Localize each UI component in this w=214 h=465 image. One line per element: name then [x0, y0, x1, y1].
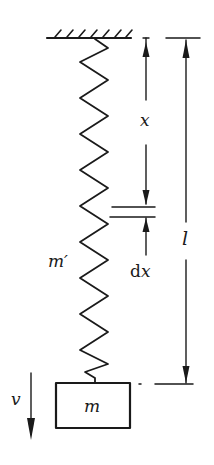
- label-mass: m: [84, 398, 100, 415]
- label-l: l: [182, 229, 188, 248]
- dx-element-marker: [110, 207, 155, 255]
- spring-zigzag: [80, 39, 108, 383]
- label-spring-mass: m′: [48, 253, 68, 270]
- spring-mass-diagram: x d x l m′ m v: [0, 0, 214, 465]
- ceiling-support: [47, 30, 132, 38]
- label-dx-d: d: [130, 263, 141, 280]
- velocity-arrow: [27, 373, 35, 440]
- label-velocity: v: [11, 391, 21, 408]
- label-dx-x: x: [141, 263, 151, 280]
- label-x: x: [140, 112, 150, 129]
- l-dimension: [139, 38, 200, 384]
